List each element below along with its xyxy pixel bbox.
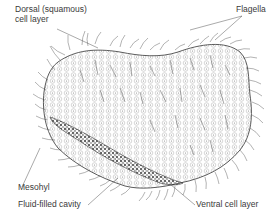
label-dorsal-line1: Dorsal (squamous) [15, 4, 87, 14]
label-dorsal-line2: cell layer [15, 14, 87, 24]
label-flagella: Flagella [236, 4, 266, 14]
label-mesohyl: Mesohyl [18, 182, 50, 192]
label-ventral-cell-layer: Ventral cell layer [196, 199, 258, 209]
label-fluid-filled-cavity: Fluid-filled cavity [18, 199, 81, 209]
label-dorsal-cell-layer: Dorsal (squamous) cell layer [15, 4, 87, 24]
